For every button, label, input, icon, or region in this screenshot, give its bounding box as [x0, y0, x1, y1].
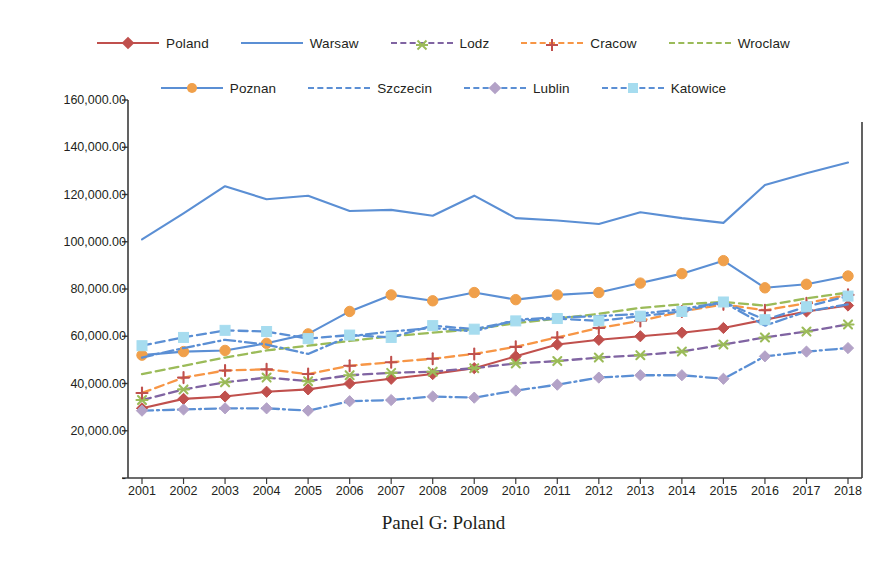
series-line [142, 163, 848, 240]
data-point-marker [801, 302, 811, 312]
data-point-marker [469, 324, 479, 334]
data-point-marker [510, 341, 521, 352]
y-tick-label: 160,000.00 [63, 93, 126, 107]
data-point-marker [594, 287, 604, 297]
data-point-marker [635, 278, 645, 288]
data-point-marker [427, 391, 438, 402]
x-tick-label: 2004 [253, 484, 281, 498]
x-tick-label: 2018 [834, 484, 862, 498]
data-point-marker [635, 370, 646, 381]
data-point-marker [386, 290, 396, 300]
data-point-marker [386, 394, 397, 405]
data-point-marker [137, 341, 147, 351]
data-point-marker [593, 334, 604, 345]
data-point-marker [386, 357, 397, 368]
x-tick-label: 2008 [419, 484, 447, 498]
x-tick-label: 2010 [502, 484, 530, 498]
data-point-marker [262, 327, 272, 337]
data-point-marker [593, 354, 604, 362]
x-tick-label: 2011 [544, 484, 571, 498]
x-tick-label: 2014 [668, 484, 696, 498]
data-point-marker [676, 348, 687, 356]
panel-caption: Panel G: Poland [0, 512, 887, 534]
data-point-marker [843, 320, 854, 328]
data-point-marker [511, 294, 521, 304]
data-point-marker [344, 360, 355, 371]
data-point-marker [594, 316, 604, 326]
data-point-marker [428, 296, 438, 306]
data-point-marker [219, 403, 230, 414]
data-point-marker [801, 328, 812, 336]
data-point-marker [759, 305, 770, 316]
x-axis-tick-labels: 2001200220032004200520062007200820092010… [0, 478, 887, 506]
data-point-marker [137, 350, 147, 360]
data-point-marker [552, 332, 563, 343]
y-tick-label: 120,000.00 [63, 188, 126, 202]
data-point-marker [220, 378, 231, 386]
x-tick-label: 2003 [211, 484, 239, 498]
data-point-marker [220, 345, 230, 355]
data-point-marker [801, 346, 812, 357]
data-point-marker [178, 393, 189, 404]
data-point-marker [344, 306, 354, 316]
y-tick-label: 80,000.00 [70, 282, 126, 296]
series-poznan [137, 255, 853, 360]
data-point-marker [759, 333, 770, 341]
data-point-marker [220, 325, 230, 335]
y-axis-tick-labels: -20,000.0040,000.0060,000.0080,000.00100… [18, 90, 126, 490]
data-point-marker [261, 338, 271, 348]
data-point-marker [718, 341, 729, 349]
data-point-marker [718, 297, 728, 307]
series-cracow [137, 289, 854, 398]
x-tick-label: 2005 [294, 484, 322, 498]
data-point-marker [469, 287, 479, 297]
data-point-marker [510, 385, 521, 396]
x-tick-label: 2012 [585, 484, 613, 498]
data-point-marker [303, 334, 313, 344]
plot-area: -20,000.0040,000.0060,000.0080,000.00100… [0, 0, 887, 573]
data-point-marker [261, 386, 272, 397]
x-tick-label: 2013 [626, 484, 654, 498]
data-point-marker [428, 321, 438, 331]
data-point-marker [178, 372, 189, 383]
data-point-marker [386, 373, 397, 384]
series-line [142, 306, 848, 409]
data-point-marker [843, 271, 853, 281]
data-point-marker [469, 348, 480, 359]
series-poland [136, 300, 853, 414]
data-point-marker [552, 314, 562, 324]
data-point-marker [427, 368, 438, 379]
data-point-marker [345, 330, 355, 340]
data-point-marker [635, 331, 646, 342]
data-point-marker [220, 365, 231, 376]
data-point-marker [759, 351, 770, 362]
chart-figure: PolandWarsawLodzCracowWroclaw PoznanSzcz… [0, 0, 887, 573]
data-point-marker [635, 351, 646, 359]
data-point-marker [718, 373, 729, 384]
data-point-marker [178, 404, 189, 415]
y-tick-label: 40,000.00 [70, 377, 126, 391]
data-point-marker [676, 327, 687, 338]
data-point-marker [677, 306, 687, 316]
x-tick-label: 2009 [460, 484, 488, 498]
x-tick-label: 2001 [128, 484, 156, 498]
data-point-marker [386, 332, 396, 342]
data-point-marker [511, 316, 521, 326]
x-tick-label: 2002 [170, 484, 198, 498]
x-tick-label: 2016 [751, 484, 779, 498]
data-point-marker [676, 370, 687, 381]
y-tick-label: 20,000.00 [70, 424, 126, 438]
data-point-marker [718, 322, 729, 333]
data-point-marker [801, 279, 811, 289]
data-point-marker [179, 332, 189, 342]
data-point-marker [843, 291, 853, 301]
data-point-marker [842, 342, 853, 353]
data-point-marker [261, 403, 272, 414]
data-point-marker [760, 315, 770, 325]
x-tick-label: 2017 [793, 484, 821, 498]
data-point-marker [469, 392, 480, 403]
data-point-marker [718, 255, 728, 265]
data-point-marker [552, 357, 563, 365]
data-point-marker [552, 290, 562, 300]
chart-axes [122, 100, 862, 484]
